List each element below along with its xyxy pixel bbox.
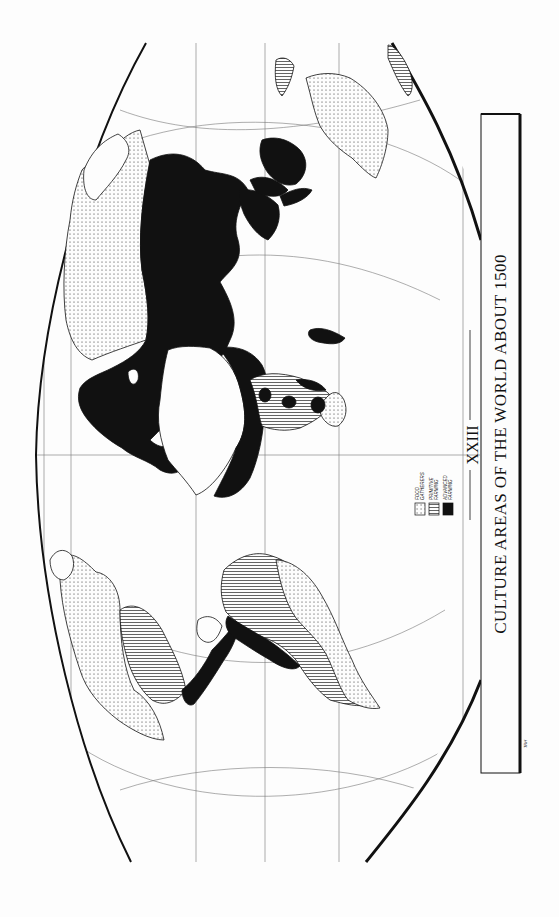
africa-blob-1 [259, 388, 271, 402]
africa-blob-3 [311, 397, 325, 413]
region-new-zealand [388, 45, 412, 96]
region-australia [306, 74, 388, 179]
legend: FOOD GATHERERS PRIMITIVE FARMING ADVANCE… [415, 472, 453, 515]
legend-label-advanced-farming-2: FARMING [448, 479, 453, 500]
region-caribbean [197, 617, 222, 643]
legend-label-primitive-farming-2: FARMING [434, 479, 439, 500]
africa-blob-2 [282, 396, 296, 408]
plate-number: XXIII [464, 425, 481, 464]
region-greenland [50, 550, 74, 580]
map-title: CULTURE AREAS OF THE WORLD ABOUT 1500 [491, 254, 510, 634]
legend-label-food-gatherers-2: GATHERERS [420, 472, 425, 500]
world-map: FOOD GATHERERS PRIMITIVE FARMING ADVANCE… [0, 0, 559, 917]
region-japan [275, 58, 294, 96]
legend-item-primitive-farming: PRIMITIVE FARMING [429, 476, 439, 515]
region-madagascar [308, 328, 345, 343]
title-box: CULTURE AREAS OF THE WORLD ABOUT 1500 [481, 114, 520, 773]
credit-initials: TRH [523, 740, 528, 748]
legend-item-advanced-farming: ADVANCED FARMING [443, 474, 453, 515]
legend-item-food-gatherers: FOOD GATHERERS [415, 472, 425, 515]
landmasses [50, 45, 412, 740]
region-india [239, 190, 279, 240]
